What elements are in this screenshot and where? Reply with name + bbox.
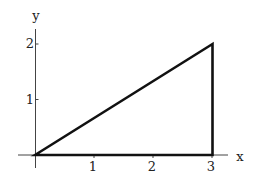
x-tick-label-1: 1 [89, 159, 97, 174]
y-tick-label-1: 1 [26, 92, 34, 107]
triangle-series [35, 44, 213, 155]
triangle-plot: 1 2 3 1 2 x y [0, 0, 260, 180]
y-axis-label: y [31, 8, 40, 23]
x-axis-label: x [236, 149, 244, 164]
x-tick-label-3: 3 [207, 159, 215, 174]
y-tick-label-2: 2 [26, 36, 34, 51]
x-tick-label-2: 2 [148, 159, 156, 174]
